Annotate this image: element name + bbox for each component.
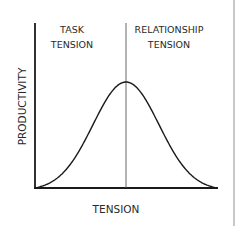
x-axis-label: TENSION (80, 202, 152, 217)
relationship-tension-label-line2: TENSION (126, 37, 212, 52)
relationship-tension-label: RELATIONSHIP TENSION (126, 22, 212, 52)
relationship-tension-label-line1: RELATIONSHIP (126, 22, 212, 37)
task-tension-label: TASK TENSION (41, 22, 103, 52)
y-axis-label: PRODUCTIVITY (15, 57, 30, 157)
task-tension-label-line1: TASK (41, 22, 103, 37)
task-tension-label-line2: TENSION (41, 37, 103, 52)
diagram: TASK TENSION RELATIONSHIP TENSION TENSIO… (0, 0, 236, 226)
right-border-divider (233, 0, 235, 226)
